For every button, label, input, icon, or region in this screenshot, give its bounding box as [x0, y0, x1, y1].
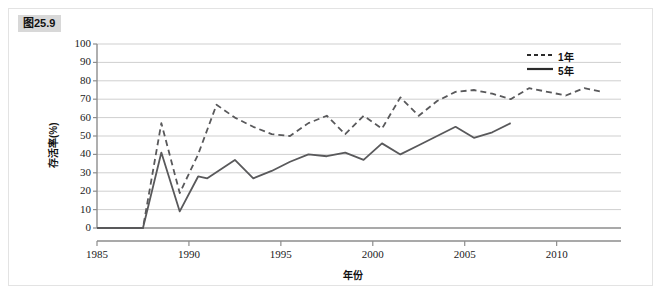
series-line-1 — [97, 88, 603, 228]
x-axis-tick-label: 2005 — [440, 248, 490, 260]
x-axis-tick-label: 1990 — [164, 248, 214, 260]
legend-label-1: 1年 — [558, 49, 574, 64]
x-axis-tick-label: 1985 — [72, 248, 122, 260]
survival-rate-line-chart: 0102030405060708090100198519901995200020… — [9, 9, 654, 287]
x-axis-tick-label: 2000 — [348, 248, 398, 260]
y-axis-tick-label: 10 — [49, 203, 91, 215]
x-axis-title: 年份 — [343, 267, 363, 282]
y-axis-tick-label: 100 — [49, 37, 91, 49]
x-axis-tick-label: 1995 — [256, 248, 306, 260]
y-axis-tick-label: 0 — [49, 221, 91, 233]
legend-label-2: 5年 — [558, 63, 574, 78]
y-axis-tick-label: 60 — [49, 111, 91, 123]
x-axis-tick-label: 2010 — [532, 248, 582, 260]
y-axis-tick-label: 80 — [49, 74, 91, 86]
series-line-2 — [97, 123, 511, 228]
y-axis-tick-label: 90 — [49, 55, 91, 67]
y-axis-tick-label: 70 — [49, 92, 91, 104]
y-axis-title: 存活率(%) — [45, 122, 60, 168]
figure-panel: 图25.9 0102030405060708090100198519901995… — [8, 8, 653, 286]
y-axis-tick-label: 20 — [49, 184, 91, 196]
